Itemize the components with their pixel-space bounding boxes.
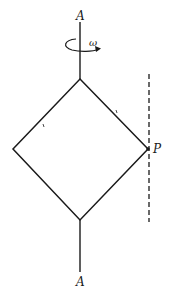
- edge-tick-left: [43, 124, 44, 127]
- label-axis-top: A: [75, 9, 85, 23]
- label-omega: ω: [89, 37, 97, 48]
- point-p-marker: [146, 147, 150, 151]
- label-axis-bottom: A: [75, 275, 85, 289]
- rhombus-frame: [13, 79, 148, 220]
- label-point-p: P: [152, 142, 162, 156]
- rotating-frame-diagram: A ω P A: [0, 0, 175, 295]
- edge-tick-right: [116, 110, 117, 113]
